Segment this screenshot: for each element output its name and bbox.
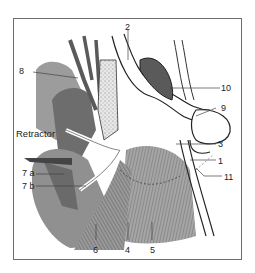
label-9: 9 [221,103,226,113]
stippled-tissue [98,60,118,140]
label-4: 4 [125,245,130,255]
label-7b: 7 b [22,181,35,191]
retractor-label: Retractor [16,129,55,139]
label-11: 11 [224,172,233,182]
label-1: 1 [218,156,223,166]
label-2: 2 [125,22,130,32]
label-6: 6 [93,245,98,255]
label-5: 5 [150,245,155,255]
label-3: 3 [218,139,223,149]
label-7a: 7 a [22,168,35,178]
label-10: 10 [221,83,231,93]
submandibular-bulge [192,110,231,144]
label-8: 8 [19,66,24,76]
